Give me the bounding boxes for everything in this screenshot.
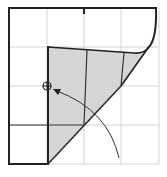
- origami-diagram: [0, 0, 167, 177]
- folded-flap: [48, 47, 148, 164]
- reference-point-marker: [43, 82, 51, 90]
